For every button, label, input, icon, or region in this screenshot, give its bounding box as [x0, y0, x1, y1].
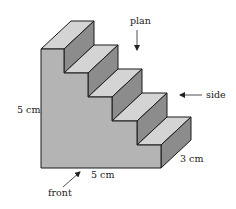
- staircase-solid: [41, 21, 191, 168]
- depth-dimension: 3 cm: [180, 153, 203, 164]
- height-dimension: 5 cm: [17, 104, 40, 115]
- front-arrow-icon: [63, 172, 80, 187]
- side-indicator: side: [180, 89, 226, 100]
- plan-label: plan: [130, 15, 151, 26]
- width-dimension: 5 cm: [91, 169, 114, 180]
- side-label: side: [206, 89, 226, 100]
- front-label: front: [48, 187, 72, 198]
- front-indicator: front: [48, 172, 80, 198]
- plan-indicator: plan: [130, 15, 151, 50]
- staircase-diagram: plan side front 5 cm 5 cm 3 cm: [0, 0, 236, 209]
